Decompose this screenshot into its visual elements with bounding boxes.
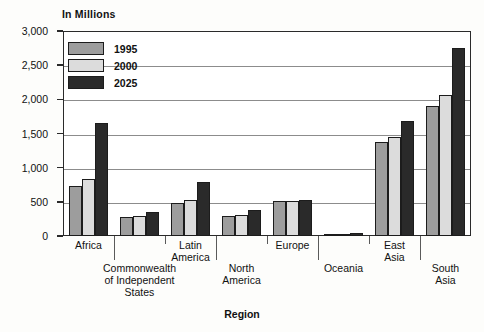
bar bbox=[439, 95, 452, 236]
y-axis-tick-marks bbox=[0, 31, 63, 236]
legend-swatch-2025 bbox=[68, 76, 104, 89]
legend-item-1995: 1995 bbox=[68, 42, 137, 55]
category-separator bbox=[216, 236, 217, 260]
bar bbox=[286, 201, 299, 236]
bar bbox=[324, 234, 337, 236]
x-tick-label: Commonwealth of Independent States bbox=[103, 262, 176, 298]
x-tick-label: Oceania bbox=[324, 262, 363, 274]
bar bbox=[82, 179, 95, 236]
bar bbox=[146, 212, 159, 236]
bar-group bbox=[324, 31, 363, 236]
bar bbox=[133, 216, 146, 237]
category-separator bbox=[420, 236, 421, 260]
bar-group bbox=[273, 31, 312, 236]
bar bbox=[197, 182, 210, 236]
bar bbox=[299, 200, 312, 236]
bar bbox=[171, 203, 184, 236]
x-tick-label: East Asia bbox=[384, 239, 405, 263]
x-axis-title: Region bbox=[0, 308, 484, 320]
bar bbox=[184, 200, 197, 236]
legend-label-1995: 1995 bbox=[114, 43, 137, 55]
legend-swatch-2000 bbox=[68, 59, 104, 72]
x-tick-label: South Asia bbox=[432, 262, 459, 286]
bar-group bbox=[426, 31, 465, 236]
x-tick-label: North America bbox=[222, 262, 261, 286]
category-separator bbox=[318, 236, 319, 260]
legend-label-2000: 2000 bbox=[114, 60, 137, 72]
bar bbox=[222, 216, 235, 236]
category-separator bbox=[114, 236, 115, 260]
legend-item-2000: 2000 bbox=[68, 59, 137, 72]
x-tick-label: Europe bbox=[276, 239, 310, 251]
legend-label-2025: 2025 bbox=[114, 77, 137, 89]
bar bbox=[273, 201, 286, 236]
bar bbox=[69, 186, 82, 236]
x-tick-label: Africa bbox=[75, 239, 102, 251]
bar bbox=[235, 215, 248, 236]
bar-chart: In Millions 05001,0001,5002,0002,5003,00… bbox=[0, 0, 484, 332]
bar bbox=[401, 121, 414, 236]
bar bbox=[248, 210, 261, 236]
bar bbox=[426, 106, 439, 236]
category-separator bbox=[267, 236, 268, 244]
bar bbox=[95, 123, 108, 236]
legend-item-2025: 2025 bbox=[68, 76, 137, 89]
bar bbox=[350, 233, 363, 236]
y-axis-title: In Millions bbox=[62, 8, 116, 20]
bar bbox=[388, 137, 401, 236]
bar bbox=[120, 217, 133, 236]
x-tick-label: Latin America bbox=[171, 239, 210, 263]
bar bbox=[375, 142, 388, 236]
bar-group bbox=[375, 31, 414, 236]
bar-group bbox=[222, 31, 261, 236]
category-separator bbox=[369, 236, 370, 244]
legend: 1995 2000 2025 bbox=[68, 42, 137, 93]
bar-group bbox=[171, 31, 210, 236]
category-separator bbox=[165, 236, 166, 244]
bar bbox=[337, 234, 350, 236]
bar bbox=[452, 48, 465, 236]
legend-swatch-1995 bbox=[68, 42, 104, 55]
